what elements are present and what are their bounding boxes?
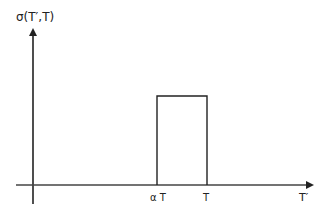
x-axis-label: T′ <box>298 191 309 204</box>
tick-alpha-t: α T <box>150 192 167 203</box>
y-axis-label: σ(T′,T) <box>16 10 54 24</box>
tick-t: T <box>202 192 210 203</box>
pulse-rectangle <box>157 96 207 185</box>
diagram-canvas: σ(T′,T) α T T T′ <box>0 0 328 222</box>
